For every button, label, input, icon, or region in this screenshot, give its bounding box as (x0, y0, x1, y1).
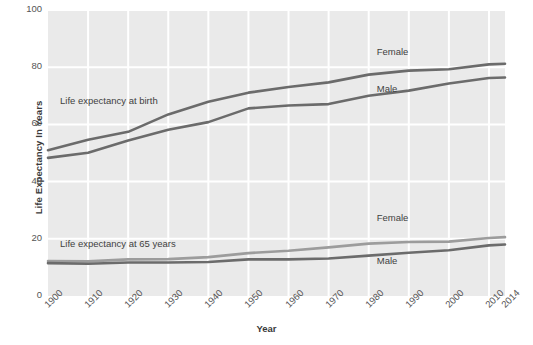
series-label-female: Female (377, 46, 409, 57)
series-label-female: Female (377, 212, 409, 223)
life-expectancy-chart: Life Expectancy In Years 020406080100 19… (0, 0, 533, 345)
chart-annotation: Life expectancy at 65 years (60, 238, 176, 249)
series-label-male: Male (377, 255, 398, 266)
series-label-male: Male (377, 83, 398, 94)
plot-background (48, 10, 505, 296)
x-axis-title: Year (0, 323, 533, 334)
chart-annotation: Life expectancy at birth (60, 95, 158, 106)
